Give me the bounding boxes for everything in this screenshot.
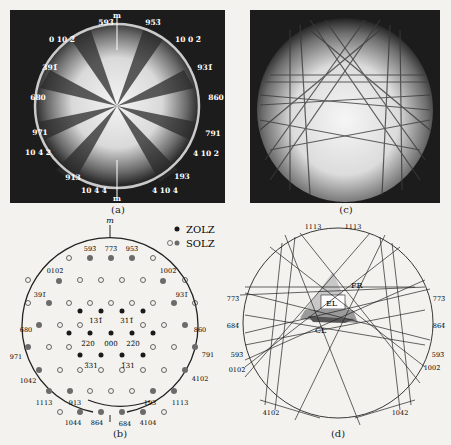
svg-text:0102̄: 0102̄: [47, 267, 64, 275]
a-label-1002: 10 0 2̄: [175, 35, 201, 44]
legend-solz-open-marker: [168, 241, 173, 246]
svg-text:593̄: 593̄: [432, 351, 444, 359]
svg-text:1113: 1113: [345, 223, 362, 231]
mirror-label-b: m: [106, 216, 114, 225]
svg-text:864̄: 864̄: [433, 322, 445, 330]
svg-text:3̅31: 3̅31: [84, 362, 97, 370]
a-label-680: 680: [30, 93, 46, 102]
panel-d-diagram: FR EL CL 1113 1113 773̄ 773̄ 684̄ 864̄ 5…: [225, 215, 451, 430]
caption-b: (b): [105, 428, 135, 439]
mirror-label-bottom: m: [113, 194, 121, 203]
svg-text:1002̄: 1002̄: [424, 364, 441, 372]
a-label-4104: 4 10 4: [152, 186, 178, 195]
legend-zolz-label: ZOLZ: [186, 224, 215, 235]
svg-text:000: 000: [104, 340, 117, 348]
holz-line-set: [240, 233, 430, 425]
svg-text:773̄: 773̄: [227, 295, 239, 303]
svg-text:953̄: 953̄: [126, 245, 138, 253]
panel-a-svg: m m 593̄ 953̄ 0 10 2̄ 10 0 2̄ 391̄ 931̄ …: [10, 10, 225, 203]
a-label-593: 593̄: [98, 18, 114, 27]
svg-text:773̄: 773̄: [433, 295, 445, 303]
svg-text:0102̄: 0102̄: [229, 366, 246, 374]
svg-text:680: 680: [20, 326, 32, 334]
svg-text:CL: CL: [315, 326, 327, 335]
a-label-791: 791: [205, 129, 221, 138]
svg-text:684: 684: [119, 420, 131, 428]
svg-text:1̅31: 1̅31: [121, 362, 134, 370]
b-center-labels: 131̄ 311̄ 2̅20 000 22̅0 3̅31 1̅31: [81, 317, 139, 370]
svg-text:593̄: 593̄: [84, 245, 96, 253]
a-label-193: 193: [174, 172, 190, 181]
svg-text:131̄: 131̄: [89, 317, 102, 325]
panel-c-photo: [250, 10, 440, 203]
a-label-913: 913: [65, 173, 81, 182]
a-label-1042: 10 4 2: [25, 148, 51, 157]
legend-zolz-marker: [175, 227, 180, 232]
a-label-4102: 4 10 2: [193, 149, 219, 158]
svg-text:1042: 1042: [20, 377, 37, 385]
panel-b-diagram: m ZOLZ SOLZ: [0, 215, 225, 430]
svg-text:1113: 1113: [172, 399, 189, 407]
panel-a-photo: m m 593̄ 953̄ 0 10 2̄ 10 0 2̄ 391̄ 931̄ …: [10, 10, 225, 203]
holz-ring-b-lower: [88, 400, 150, 406]
svg-text:311̄: 311̄: [120, 317, 133, 325]
svg-text:1042: 1042: [392, 409, 409, 417]
svg-text:EL: EL: [326, 299, 338, 308]
svg-text:1044: 1044: [65, 419, 82, 427]
a-label-971: 971: [32, 128, 48, 137]
a-label-931: 931̄: [197, 63, 213, 72]
svg-text:1002̄: 1002̄: [160, 267, 177, 275]
holz-ring-b: [22, 238, 198, 412]
svg-text:684̄: 684̄: [227, 322, 239, 330]
svg-text:971: 971: [10, 353, 22, 361]
svg-text:22̅0: 22̅0: [126, 340, 139, 348]
a-label-860: 860: [208, 93, 224, 102]
svg-text:593̄: 593̄: [231, 351, 243, 359]
svg-text:4102: 4102: [192, 375, 209, 383]
svg-text:1113: 1113: [305, 223, 322, 231]
svg-text:913: 913: [69, 399, 81, 407]
svg-text:860: 860: [194, 326, 206, 334]
caption-d: (d): [323, 428, 353, 439]
a-label-0102: 0 10 2̄: [49, 35, 75, 44]
panel-b-svg: m ZOLZ SOLZ: [0, 215, 225, 430]
a-label-1044: 10 4 4: [81, 186, 107, 195]
svg-text:391̄: 391̄: [34, 291, 46, 299]
mirror-label-top: m: [113, 11, 121, 20]
zolz-spots: [67, 309, 156, 358]
panel-c-svg: [250, 10, 440, 203]
svg-text:1113: 1113: [36, 399, 53, 407]
svg-text:931̄: 931̄: [176, 291, 188, 299]
svg-text:2̅20: 2̅20: [81, 340, 94, 348]
a-label-391: 391̄: [42, 63, 58, 72]
svg-text:864: 864: [91, 419, 103, 427]
d-boundary-circle: [243, 228, 433, 418]
legend-solz-label: SOLZ: [186, 238, 215, 249]
svg-text:193: 193: [144, 399, 156, 407]
svg-text:FR: FR: [351, 281, 364, 290]
svg-text:773̄: 773̄: [105, 245, 117, 253]
a-label-953: 953̄: [145, 18, 161, 27]
panel-d-svg: FR EL CL 1113 1113 773̄ 773̄ 684̄ 864̄ 5…: [225, 215, 451, 430]
caption-c: (c): [331, 204, 361, 215]
svg-text:4104: 4104: [140, 419, 157, 427]
svg-text:4102: 4102: [263, 409, 280, 417]
caption-a: (a): [103, 204, 133, 215]
svg-text:791: 791: [202, 351, 214, 359]
legend-solz-filled-marker: [175, 241, 180, 246]
